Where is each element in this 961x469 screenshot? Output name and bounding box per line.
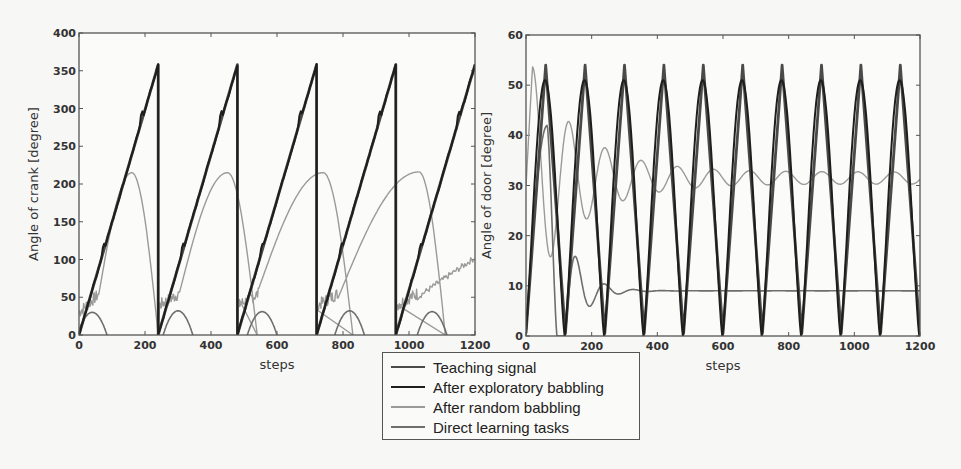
legend-item-teaching: Teaching signal: [391, 357, 639, 377]
legend-item-random: After random babbling: [391, 397, 639, 417]
legend-label: After exploratory babbling: [433, 379, 604, 396]
x-tick-label: 1000: [839, 340, 870, 353]
y-axis-label: Angle of door [degree]: [479, 112, 494, 259]
crank-angle-chart: 0200400600800100012000501001502002503003…: [26, 27, 491, 372]
y-tick-label: 60: [508, 29, 524, 42]
y-tick-label: 40: [508, 129, 524, 142]
x-tick-label: 200: [134, 339, 157, 352]
x-tick-label: 800: [777, 340, 800, 353]
y-tick-label: 400: [53, 27, 76, 40]
legend-line-exploratory: [391, 386, 425, 388]
legend-item-exploratory: After exploratory babbling: [391, 377, 639, 397]
x-tick-label: 1000: [394, 339, 425, 352]
x-tick-label: 400: [200, 339, 223, 352]
y-tick-label: 150: [53, 216, 76, 229]
y-tick-label: 20: [508, 230, 524, 243]
y-tick-label: 250: [53, 140, 76, 153]
y-tick-label: 50: [61, 291, 77, 304]
y-tick-label: 300: [53, 103, 76, 116]
legend-item-direct: Direct learning tasks: [391, 417, 639, 437]
y-tick-label: 30: [508, 180, 524, 193]
legend-label: Direct learning tasks: [433, 419, 569, 436]
legend-label: After random babbling: [433, 399, 581, 416]
y-tick-label: 0: [68, 329, 76, 342]
x-tick-label: 0: [75, 339, 83, 352]
y-tick-label: 50: [508, 79, 524, 92]
x-axis-label: steps: [260, 357, 295, 372]
x-axis-label: steps: [706, 358, 741, 373]
x-tick-label: 1200: [905, 340, 936, 353]
legend-label: Teaching signal: [433, 359, 536, 376]
x-tick-label: 800: [332, 339, 355, 352]
x-tick-label: 600: [266, 339, 289, 352]
legend-line-random: [391, 406, 425, 408]
y-tick-label: 350: [53, 65, 76, 78]
y-tick-label: 200: [53, 178, 76, 191]
legend-line-teaching: [391, 366, 425, 368]
legend-line-direct: [391, 426, 425, 428]
x-tick-label: 1200: [460, 339, 491, 352]
door-angle-chart: 0200400600800100012000102030405060stepsA…: [479, 29, 936, 373]
y-axis-label: Angle of crank [degree]: [26, 107, 41, 261]
legend: Teaching signal After exploratory babbli…: [382, 352, 640, 440]
y-tick-label: 0: [515, 330, 523, 343]
x-tick-label: 600: [712, 340, 735, 353]
y-tick-label: 10: [508, 280, 524, 293]
x-tick-label: 400: [646, 340, 669, 353]
y-tick-label: 100: [53, 254, 76, 267]
